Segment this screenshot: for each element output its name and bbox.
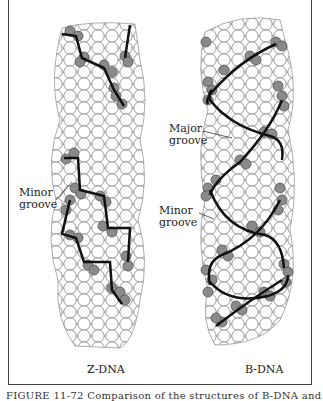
label-line: groove <box>19 199 57 211</box>
z-dna-minor-groove-label: Minor groove <box>19 187 57 211</box>
b-dna-minor-groove-label: Minor groove <box>159 205 197 229</box>
label-line: groove <box>159 217 197 229</box>
b-dna-major-groove-label: Major groove <box>169 123 207 147</box>
z-dna-panel-label: Z-DNA <box>87 363 125 376</box>
figure-caption: FIGURE 11-72 Comparison of the structure… <box>6 390 321 401</box>
label-line: groove <box>169 135 207 147</box>
z-dna-model <box>51 23 145 348</box>
b-dna-model <box>201 18 295 345</box>
b-dna-panel-label: B-DNA <box>245 363 283 376</box>
